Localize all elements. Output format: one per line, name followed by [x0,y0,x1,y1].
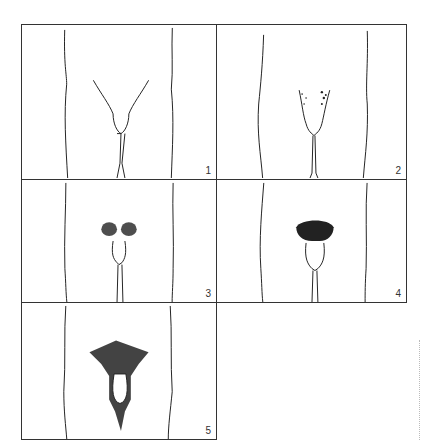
panel-number: 5 [205,425,211,436]
panel-number: 2 [395,165,401,176]
panel-number: 1 [205,165,211,176]
figure-outline-icon [22,25,216,179]
panel-stage-2: 2 [216,24,407,180]
panel-stage-4: 4 [216,179,407,303]
panel-stage-3: 3 [21,179,217,303]
figure-outline-icon [22,180,216,302]
panel-number: 4 [395,288,401,299]
figure-outline-icon [217,25,406,179]
panel-stage-1: 1 [21,24,217,180]
panel-number: 3 [205,288,211,299]
figure-outline-icon [217,180,406,302]
figure-outline-icon [22,303,216,439]
panel-stage-5: 5 [21,302,217,440]
page-edge-mark [419,340,421,440]
